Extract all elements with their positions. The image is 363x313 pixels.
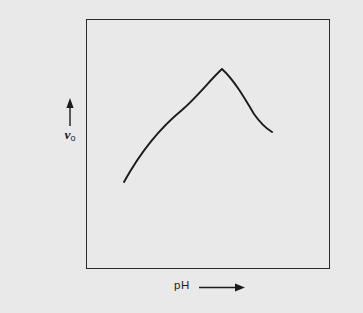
x-axis-label: pH — [174, 280, 190, 292]
x-axis-label-text: pH — [174, 279, 190, 291]
y-axis-label: vo — [52, 128, 88, 143]
plot-frame — [86, 19, 330, 269]
figure-canvas: vo pH — [0, 0, 363, 313]
x-axis-right-arrow-icon — [199, 284, 245, 292]
y-axis-up-arrow-icon — [66, 98, 73, 126]
y-axis-subscript: o — [71, 133, 76, 143]
